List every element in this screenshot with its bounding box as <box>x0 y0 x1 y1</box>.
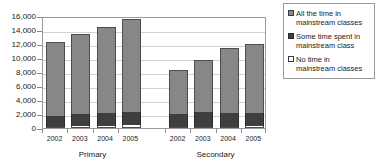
x-axis-tick-mark <box>67 129 68 133</box>
y-axis-tick-label: 10,000 <box>0 55 36 63</box>
bar-segment-all-the-time <box>97 27 116 114</box>
x-axis-tick-mark <box>216 129 217 133</box>
legend-swatch-icon <box>288 33 294 39</box>
y-axis-tick-label: 2,000 <box>0 111 36 119</box>
bar-2005-secondary[interactable] <box>245 44 264 128</box>
bar-segment-no-time <box>122 125 141 128</box>
legend-item[interactable]: No time in mainstream classes <box>288 55 371 73</box>
bar-segment-all-the-time <box>71 34 90 114</box>
x-axis-tick-label: 2005 <box>238 135 268 143</box>
bar-segment-some-time <box>220 113 239 126</box>
y-axis-tick-label: 16,000 <box>0 13 36 21</box>
bar-segment-no-time <box>245 126 264 128</box>
x-axis-tick-mark <box>190 129 191 133</box>
bar-segment-some-time <box>169 114 188 127</box>
bar-segment-some-time <box>245 113 264 127</box>
plot-area <box>42 17 266 129</box>
bar-segment-all-the-time <box>220 48 239 114</box>
bar-2002-secondary[interactable] <box>169 70 188 128</box>
bar-2002-primary[interactable] <box>46 42 65 128</box>
legend-item-label: Some time spent in mainstream class <box>296 32 371 50</box>
legend-item-label: No time in mainstream classes <box>296 55 371 73</box>
chart-legend: All the time in mainstream classesSome t… <box>283 3 375 79</box>
y-axis: 16,00014,00012,00010,0008,0006,0004,0002… <box>0 17 36 129</box>
bar-segment-some-time <box>194 112 213 127</box>
y-axis-tick-label: 0 <box>0 125 36 133</box>
y-axis-tick-mark <box>37 73 42 74</box>
y-axis-tick-mark <box>37 115 42 116</box>
y-axis-tick-mark <box>37 59 42 60</box>
x-axis-tick-mark <box>241 129 242 133</box>
bar-segment-no-time <box>169 127 188 128</box>
bar-segment-some-time <box>46 116 65 127</box>
bar-segment-no-time <box>71 126 90 128</box>
y-axis-tick-label: 4,000 <box>0 97 36 105</box>
y-axis-tick-mark <box>37 31 42 32</box>
bar-segment-no-time <box>46 127 65 128</box>
x-axis-group-label-secondary: Secondary <box>171 150 261 159</box>
bar-segment-all-the-time <box>194 60 213 112</box>
bar-segment-no-time <box>194 127 213 128</box>
bar-segment-some-time <box>97 113 116 126</box>
bar-2005-primary[interactable] <box>122 19 141 128</box>
legend-item[interactable]: All the time in mainstream classes <box>288 9 371 27</box>
legend-item-label: All the time in mainstream classes <box>296 9 371 27</box>
y-axis-tick-label: 8,000 <box>0 69 36 77</box>
y-axis-tick-label: 14,000 <box>0 27 36 35</box>
y-axis-tick-label: 6,000 <box>0 83 36 91</box>
y-axis-tick-mark <box>37 87 42 88</box>
bar-segment-no-time <box>97 126 116 128</box>
legend-item[interactable]: Some time spent in mainstream class <box>288 32 371 50</box>
legend-swatch-icon <box>288 56 294 62</box>
x-axis-tick-mark <box>265 129 266 133</box>
stacked-bar-chart: 16,00014,00012,00010,0008,0006,0004,0002… <box>0 0 379 165</box>
bar-segment-some-time <box>122 112 141 125</box>
bar-segment-some-time <box>71 114 90 127</box>
bar-2004-secondary[interactable] <box>220 48 239 128</box>
x-axis-tick-mark <box>93 129 94 133</box>
x-axis-tick-label: 2005 <box>115 135 145 143</box>
bar-2003-secondary[interactable] <box>194 60 213 128</box>
bar-segment-no-time <box>220 127 239 128</box>
bar-2003-primary[interactable] <box>71 34 90 128</box>
x-axis-tick-mark <box>42 129 43 133</box>
bar-segment-all-the-time <box>169 70 188 114</box>
y-axis-tick-mark <box>37 101 42 102</box>
y-axis-tick-label: 12,000 <box>0 41 36 49</box>
bar-segment-all-the-time <box>245 44 264 113</box>
legend-swatch-icon <box>288 10 294 16</box>
y-axis-tick-mark <box>37 45 42 46</box>
x-axis-tick-mark <box>118 129 119 133</box>
y-axis-tick-mark <box>37 17 42 18</box>
bar-segment-all-the-time <box>122 19 141 112</box>
bar-2004-primary[interactable] <box>97 27 116 128</box>
x-axis-group-label-primary: Primary <box>48 150 138 159</box>
x-axis-tick-mark <box>165 129 166 133</box>
bar-segment-all-the-time <box>46 42 65 116</box>
